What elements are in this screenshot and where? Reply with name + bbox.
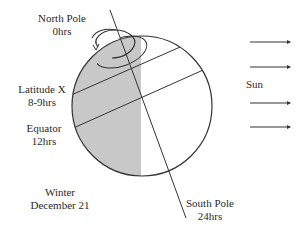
latitude-x-name: Latitude X	[10, 83, 74, 96]
south-pole-name: South Pole	[174, 197, 246, 210]
latitude-x-label: Latitude X 8-9hrs	[10, 83, 74, 109]
season-date: December 21	[20, 199, 100, 212]
north-pole-label: North Pole 0hrs	[30, 12, 94, 38]
latitude-x-hours: 8-9hrs	[10, 96, 74, 109]
north-pole-name: North Pole	[30, 12, 94, 25]
equator-label: Equator 12hrs	[16, 122, 72, 148]
north-pole-hours: 0hrs	[30, 25, 94, 38]
season-label: Winter December 21	[20, 186, 100, 212]
sun-label: Sun	[246, 78, 263, 91]
south-pole-hours: 24hrs	[174, 210, 246, 223]
season-name: Winter	[20, 186, 100, 199]
equator-hours: 12hrs	[16, 135, 72, 148]
equator-name: Equator	[16, 122, 72, 135]
south-pole-label: South Pole 24hrs	[174, 197, 246, 223]
